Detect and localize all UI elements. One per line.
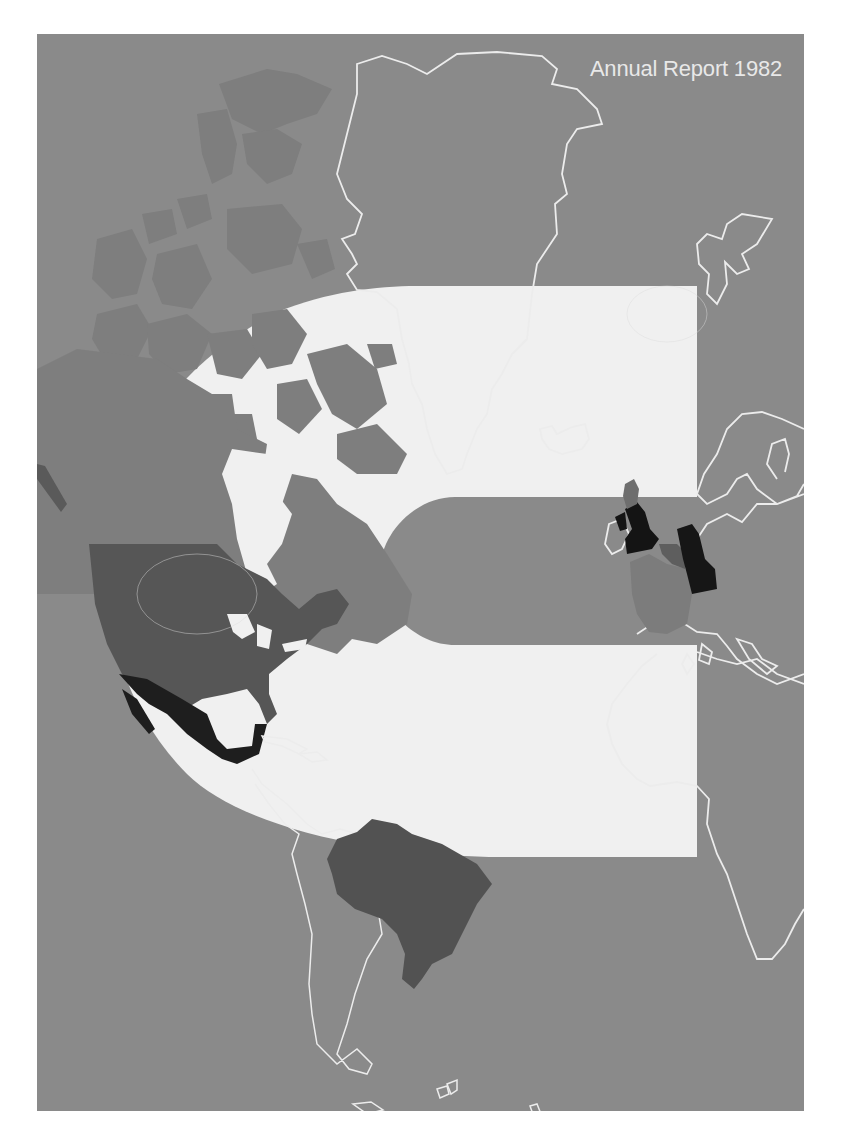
report-title: Annual Report 1982 xyxy=(590,56,782,82)
world-map-illustration xyxy=(37,34,804,1111)
svalbard-outline xyxy=(697,214,772,304)
report-cover: Annual Report 1982 xyxy=(37,34,804,1111)
southern-islands xyxy=(353,1080,541,1111)
